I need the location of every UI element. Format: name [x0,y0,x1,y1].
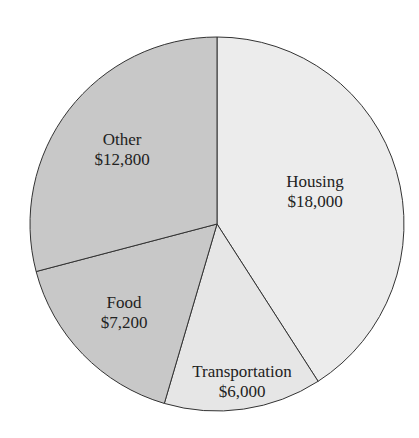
slice-label-transportation: Transportation $6,000 [192,362,292,402]
slice-amount: $7,200 [101,313,148,333]
slice-name: Transportation [192,362,292,382]
slice-name: Food [101,293,148,313]
slice-amount: $18,000 [286,192,344,212]
slice-label-housing: Housing $18,000 [286,172,344,212]
slice-amount: $6,000 [192,382,292,402]
slice-name: Housing [286,172,344,192]
slice-amount: $12,800 [94,150,149,170]
slice-label-food: Food $7,200 [101,293,148,333]
slice-name: Other [94,130,149,150]
slice-label-other: Other $12,800 [94,130,149,170]
